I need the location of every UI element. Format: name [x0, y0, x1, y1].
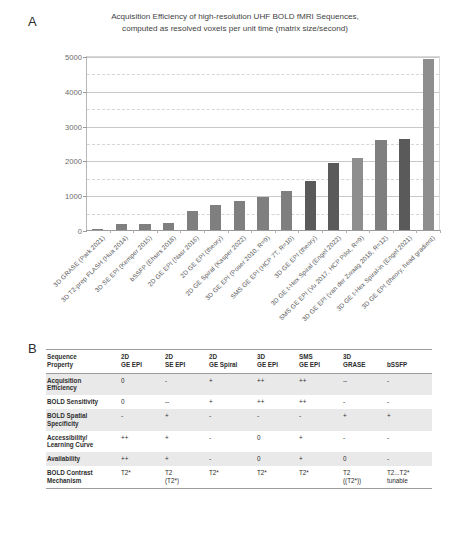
table-row-header-line-1: BOLD Contrast — [47, 469, 119, 477]
table-cell: 0 — [120, 395, 164, 409]
table-row-header-line-1: BOLD Sensitivity — [47, 398, 119, 406]
table-cell-value-secondary: tunable — [387, 477, 431, 485]
bar — [163, 223, 174, 230]
panel-b-table: B Sequence Property 2DGE EPI2DSE EPI2DGE… — [0, 335, 451, 535]
x-tick-mark — [298, 230, 299, 233]
table-header-cell-3d-ge-epi: 3DGE EPI — [256, 350, 298, 374]
chart-bars — [86, 56, 440, 230]
table-header-cell-property: Sequence Property — [46, 350, 120, 374]
table-cell-value: - — [257, 412, 297, 420]
table-row-header: Accessibility/Learning Curve — [46, 431, 120, 453]
table-cell: - — [386, 431, 432, 453]
table-row-header: BOLD ContrastMechanism — [46, 466, 120, 488]
chart-x-axis-line — [86, 230, 440, 231]
table-cell: T2* — [120, 466, 164, 488]
table-cell: - — [386, 395, 432, 409]
table-cell: + — [298, 431, 342, 453]
x-axis-label: 3D GE EPI (theory) — [273, 234, 318, 279]
table-header-cell-sms-ge-epi: SMSGE EPI — [298, 350, 342, 374]
table-header-cell-bssfp: bSSFP — [386, 350, 432, 374]
table-cell-value: + — [209, 398, 255, 406]
y-tick-label: 5000 — [65, 53, 82, 62]
table-row: Accessibility/Learning Curve+++-0+-- — [46, 431, 432, 453]
table-row-header: Availability — [46, 452, 120, 466]
x-tick-mark — [251, 230, 252, 233]
table-header-cell-2d-se-epi: 2DSE EPI — [164, 350, 208, 374]
table-cell-value: T2* — [121, 469, 163, 477]
table-cell: + — [164, 409, 208, 431]
table-cell: - — [120, 409, 164, 431]
table-cell-value: - — [387, 377, 431, 385]
table-cell: 0 — [342, 452, 386, 466]
table-cell-value: + — [299, 455, 341, 463]
table-cell: - — [208, 431, 256, 453]
bar — [328, 163, 339, 230]
x-axis-label: 3D GE EPI (van der Zwaag 2018, R=12) — [300, 234, 389, 323]
table-cell-value-secondary: ((T2*)) — [343, 477, 385, 485]
table-cell: T2(T2*) — [164, 466, 208, 488]
bar — [234, 201, 245, 230]
table-cell-value: 0 — [343, 455, 385, 463]
panel-a-label: A — [28, 14, 37, 29]
table-row: AcquisitionEfficiency0-+++++--- — [46, 373, 432, 395]
table-row: Availability+++-0+0- — [46, 452, 432, 466]
table-cell-value: - — [343, 398, 385, 406]
y-tick-label: 3000 — [65, 122, 82, 131]
table-row-header-line-2: Specificity — [47, 420, 119, 428]
table-cell: 0 — [120, 373, 164, 395]
table-cell: ++ — [120, 431, 164, 453]
table-cell-value: 0 — [121, 377, 163, 385]
bar — [116, 224, 127, 230]
y-tick-label: 2000 — [65, 157, 82, 166]
table-cell-value: - — [387, 434, 431, 442]
y-tick-label: 1000 — [65, 192, 82, 201]
table-row-header-line-1: Acquisition — [47, 377, 119, 385]
table-cell: ++ — [256, 373, 298, 395]
table-cell: + — [386, 409, 432, 431]
table-cell-value: - — [165, 377, 207, 385]
table-header: Sequence Property 2DGE EPI2DSE EPI2DGE S… — [46, 350, 432, 374]
table-cell: - — [386, 373, 432, 395]
x-axis-label: SMS GE EPI (Vu 2017, HCP Pilot, R=9) — [278, 234, 365, 321]
table-row-header-line-2: Mechanism — [47, 477, 119, 485]
x-axis-label: 2D GE EPI (theory) — [179, 234, 224, 279]
table-row: BOLD SpatialSpecificity-+---++ — [46, 409, 432, 431]
panel-b-label: B — [28, 341, 37, 356]
table-cell-value: - — [209, 455, 255, 463]
table-header-line-1: 2D — [165, 353, 207, 361]
table-cell-value: ++ — [299, 377, 341, 385]
table-row-header: BOLD Sensitivity — [46, 395, 120, 409]
table-header-line-2: GE EPI — [257, 361, 297, 369]
table-body: AcquisitionEfficiency0-+++++---BOLD Sens… — [46, 373, 432, 488]
table-cell-value: ++ — [299, 398, 341, 406]
bar — [305, 181, 316, 230]
table-cell: - — [342, 431, 386, 453]
table-cell: 0 — [256, 452, 298, 466]
bar — [187, 211, 198, 230]
table-cell-value: 0 — [121, 398, 163, 406]
sequence-property-table: Sequence Property 2DGE EPI2DSE EPI2DGE S… — [46, 349, 432, 489]
table-header-row: Sequence Property 2DGE EPI2DSE EPI2DGE S… — [46, 350, 432, 374]
x-tick-mark — [110, 230, 111, 233]
table-cell-value: T2* — [257, 469, 297, 477]
table-cell: + — [164, 452, 208, 466]
table-cell-value: + — [165, 434, 207, 442]
x-tick-mark — [440, 230, 441, 233]
table-cell-value: + — [343, 412, 385, 420]
table-cell-value-secondary: (T2*) — [165, 477, 207, 485]
table-cell-value: T2 — [343, 469, 385, 477]
x-tick-mark — [416, 230, 417, 233]
table-row: BOLD ContrastMechanismT2*T2(T2*)T2*T2*T2… — [46, 466, 432, 488]
table-header-line-2: GRASE — [343, 361, 385, 369]
table-row-header-line-1: Accessibility/ — [47, 434, 119, 442]
table-header-line-1: 3D — [343, 353, 385, 361]
table-header-line-1: bSSFP — [387, 361, 431, 369]
table-header-line-1: SMS — [299, 353, 341, 361]
table-cell: + — [342, 409, 386, 431]
y-tick-label: 0 — [78, 227, 82, 236]
table-cell-value: ++ — [121, 455, 163, 463]
table-cell: - — [164, 373, 208, 395]
table-header-property-line-1: Sequence — [47, 353, 119, 361]
x-tick-mark — [393, 230, 394, 233]
x-tick-mark — [133, 230, 134, 233]
